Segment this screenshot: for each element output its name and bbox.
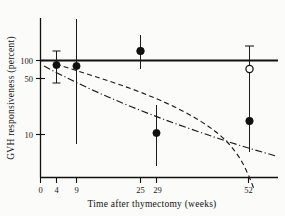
y-tick-label-100: 100 <box>20 56 33 66</box>
x-tick-label-52: 52 <box>244 185 253 195</box>
x-axis-title: Time after thymectomy (weeks) <box>87 199 216 210</box>
y-tick-label-50: 50 <box>25 74 34 84</box>
datapoint-week-52-filled <box>246 87 253 152</box>
marker-open-circle-week-52 <box>246 65 253 72</box>
x-tick-label-4: 4 <box>54 185 59 195</box>
x-tick-label-29: 29 <box>153 185 162 195</box>
marker-filled-circle-week-25 <box>137 47 145 55</box>
marker-filled-circle-week-29 <box>153 129 160 136</box>
x-tick-group: 0 4 9 25 29 52 <box>38 177 252 195</box>
marker-filled-circle-week-52 <box>246 117 253 124</box>
curve-dashed-predicted-decay <box>56 64 254 189</box>
y-tick-group: 100 50 10 <box>20 56 45 140</box>
marker-filled-circle-week-9 <box>73 62 80 69</box>
datapoint-week-29 <box>153 105 160 166</box>
y-tick-label-10: 10 <box>25 130 34 140</box>
marker-filled-circle-week-4 <box>53 61 60 68</box>
figure-container: 100 50 10 0 4 9 25 29 52 <box>0 0 285 216</box>
curve-dashdot-predicted-decay <box>44 66 276 156</box>
gvh-responsiveness-chart: 100 50 10 0 4 9 25 29 52 <box>0 0 285 216</box>
x-tick-label-9: 9 <box>74 185 78 195</box>
datapoint-week-52-open <box>245 46 254 87</box>
datapoint-week-4 <box>53 51 61 83</box>
datapoint-week-9 <box>73 19 80 144</box>
x-tick-label-25: 25 <box>136 185 145 195</box>
datapoint-week-25 <box>137 35 145 69</box>
x-tick-label-0: 0 <box>38 185 42 195</box>
y-axis-title: GVH responsiveness (percent) <box>6 36 17 160</box>
